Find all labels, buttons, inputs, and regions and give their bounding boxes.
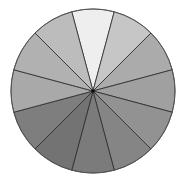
- pie-chart: [0, 0, 185, 180]
- center-dot: [91, 89, 94, 92]
